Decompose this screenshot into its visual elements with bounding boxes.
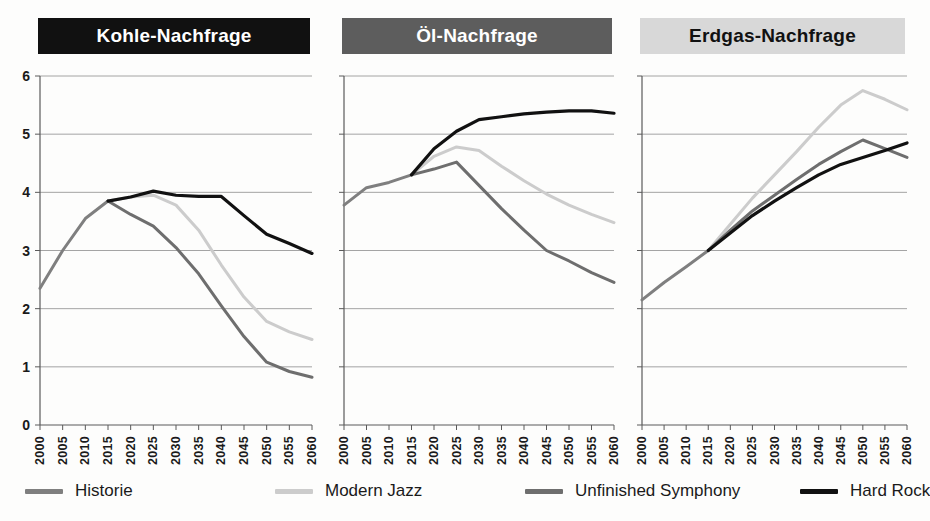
series-line-hard-rock <box>108 191 312 253</box>
legend-line-icon <box>25 489 63 494</box>
x-tick-label: 2030 <box>472 436 486 465</box>
plot-svg-erdgas <box>642 76 907 425</box>
plot-area-oel <box>344 76 614 425</box>
x-tick-label: 2045 <box>237 436 251 465</box>
legend-item[interactable]: Unfinished Symphony <box>525 481 740 501</box>
x-tick-label: 2040 <box>214 436 228 465</box>
x-tick-label: 2025 <box>745 436 759 465</box>
plot-svg-oel <box>344 76 614 425</box>
chart-panel-erdgas: Erdgas-Nachfrage 20002005201020152020202… <box>630 0 921 470</box>
chart-panels: Kohle-Nachfrage 6543210 2000200520102015… <box>0 0 921 470</box>
legend-line-icon <box>525 489 563 494</box>
series-line-unfinished-symphony <box>108 201 312 377</box>
legend-label: Modern Jazz <box>325 481 422 501</box>
x-tick-label: 2020 <box>723 436 737 465</box>
x-tick-label: 2050 <box>856 436 870 465</box>
series-line-unfinished-symphony <box>708 140 907 251</box>
chart-panel-kohle: Kohle-Nachfrage 6543210 2000200520102015… <box>0 0 330 470</box>
y-tick-label: 5 <box>22 127 30 141</box>
y-axis-labels-kohle: 6543210 <box>6 76 34 425</box>
x-tick-label: 2060 <box>607 436 621 465</box>
series-line-historie <box>642 251 708 300</box>
x-tick-label: 2000 <box>635 436 649 465</box>
x-tick-label: 2005 <box>360 436 374 465</box>
legend-item[interactable]: Modern Jazz <box>275 481 422 501</box>
x-tick-label: 2005 <box>56 436 70 465</box>
panel-title-oel: Öl-Nachfrage <box>342 18 612 54</box>
x-tick-label: 2035 <box>790 436 804 465</box>
x-tick-label: 2045 <box>540 436 554 465</box>
x-tick-label: 2060 <box>900 436 914 465</box>
x-tick-label: 2010 <box>679 436 693 465</box>
x-tick-label: 2000 <box>337 436 351 465</box>
y-tick-label: 2 <box>22 302 30 316</box>
panel-title-kohle: Kohle-Nachfrage <box>38 18 310 54</box>
x-tick-label: 2005 <box>657 436 671 465</box>
series-line-modern-jazz <box>412 147 615 223</box>
x-tick-label: 2025 <box>450 436 464 465</box>
x-tick-label: 2025 <box>146 436 160 465</box>
series-line-hard-rock <box>708 143 907 251</box>
x-tick-label: 2015 <box>405 436 419 465</box>
plot-area-erdgas <box>642 76 907 425</box>
x-tick-label: 2045 <box>834 436 848 465</box>
legend-item[interactable]: Historie <box>25 481 133 501</box>
x-tick-label: 2060 <box>305 436 319 465</box>
x-tick-label: 2030 <box>169 436 183 465</box>
legend-label: Hard Rock <box>850 481 930 501</box>
x-tick-label: 2055 <box>585 436 599 465</box>
y-tick-label: 6 <box>22 69 30 83</box>
x-tick-label: 2015 <box>701 436 715 465</box>
legend-label: Historie <box>75 481 133 501</box>
x-axis-labels-oel: 2000200520102015202020252030203520402045… <box>344 432 614 480</box>
x-axis-labels-kohle: 2000200520102015202020252030203520402045… <box>40 432 312 480</box>
x-tick-label: 2050 <box>260 436 274 465</box>
x-tick-label: 2010 <box>382 436 396 465</box>
legend-item[interactable]: Hard Rock <box>800 481 930 501</box>
x-tick-label: 2055 <box>282 436 296 465</box>
x-axis-labels-erdgas: 2000200520102015202020252030203520402045… <box>642 432 907 480</box>
legend-line-icon <box>275 489 313 494</box>
y-tick-label: 4 <box>22 185 30 199</box>
series-line-historie <box>40 201 108 288</box>
x-tick-label: 2040 <box>517 436 531 465</box>
y-tick-label: 1 <box>22 360 30 374</box>
chart-legend: HistorieModern JazzUnfinished SymphonyHa… <box>0 474 921 508</box>
x-tick-label: 2035 <box>495 436 509 465</box>
x-tick-label: 2020 <box>124 436 138 465</box>
x-tick-label: 2035 <box>192 436 206 465</box>
x-tick-label: 2055 <box>878 436 892 465</box>
x-tick-label: 2010 <box>78 436 92 465</box>
plot-svg-kohle <box>40 76 312 425</box>
y-tick-label: 0 <box>22 418 30 432</box>
plot-area-kohle <box>40 76 312 425</box>
panel-title-erdgas: Erdgas-Nachfrage <box>640 18 905 54</box>
series-line-historie <box>344 175 412 205</box>
y-tick-label: 3 <box>22 244 30 258</box>
legend-line-icon <box>800 489 838 494</box>
x-tick-label: 2030 <box>768 436 782 465</box>
x-tick-label: 2000 <box>33 436 47 465</box>
series-line-unfinished-symphony <box>412 162 615 282</box>
x-tick-label: 2050 <box>562 436 576 465</box>
x-tick-label: 2015 <box>101 436 115 465</box>
x-tick-label: 2040 <box>812 436 826 465</box>
legend-label: Unfinished Symphony <box>575 481 740 501</box>
x-tick-label: 2020 <box>427 436 441 465</box>
chart-panel-oel: Öl-Nachfrage 200020052010201520202025203… <box>330 0 630 470</box>
